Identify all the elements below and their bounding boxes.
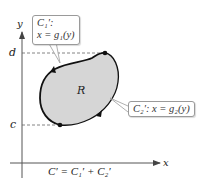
callout-c2-text: C₂′: x = g₂(y): [133, 103, 190, 114]
d-label: d: [9, 46, 16, 59]
callout-c2: C₂′: x = g₂(y): [128, 101, 195, 117]
curve-sum-caption: C′ = C₁′ + C₂′: [48, 165, 111, 177]
c2-pointer: [110, 98, 128, 112]
region-diagram: y x d c R: [0, 0, 203, 191]
y-axis-label: y: [16, 18, 23, 29]
x-axis-label: x: [163, 157, 169, 168]
c-label: c: [10, 118, 16, 131]
callout-c1-line2: x = g₁(y): [37, 29, 75, 41]
callout-c1-line1: C₁′:: [37, 17, 75, 29]
region-label: R: [76, 84, 85, 97]
green-theorem-figure: y x d c R C₁′: x = g₁(y) C₂′: x = g₂(y) …: [0, 0, 203, 191]
point-top: [103, 51, 108, 56]
callout-c1: C₁′: x = g₁(y): [32, 15, 80, 45]
c1-pointer: [48, 42, 60, 63]
point-bottom: [58, 123, 63, 128]
